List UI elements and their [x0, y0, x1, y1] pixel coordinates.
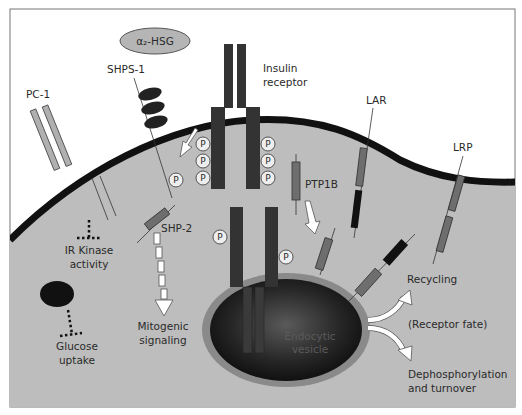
dephosphorylation-label-line1: Dephosphorylation: [408, 368, 508, 380]
ptp1b-label: PTP1B: [305, 178, 338, 190]
phosphate-icon: P: [261, 137, 275, 151]
insulin-receptor-label-line1: Insulin: [263, 62, 297, 74]
ir-kinase-label-line1: IR Kinase: [65, 244, 114, 256]
insulin-receptor-label-line2: receptor: [263, 76, 308, 88]
phosphate-icon: P: [279, 250, 293, 264]
pc1-label: PC-1: [26, 88, 50, 100]
dephosphorylation-label-line2: and turnover: [408, 382, 477, 394]
svg-text:P: P: [283, 252, 289, 262]
phosphate-icon: P: [196, 171, 210, 185]
recycling-label: Recycling: [407, 273, 457, 285]
svg-text:P: P: [173, 175, 179, 185]
mitogenic-label-line2: signaling: [139, 334, 186, 346]
lar-label: LAR: [366, 94, 387, 106]
shp2-label: SHP-2: [161, 222, 192, 234]
svg-text:P: P: [217, 232, 223, 242]
glucose-label-line1: Glucose: [56, 340, 98, 352]
phosphate-icon: P: [196, 137, 210, 151]
vesicle-label-line1: Endocytic: [284, 330, 335, 342]
glucose-label-line2: uptake: [59, 354, 95, 366]
vesicle-label-line2: vesicle: [292, 343, 328, 355]
a2hsg-label: α₂-HSG: [136, 35, 174, 47]
lrp-label: LRP: [453, 141, 472, 153]
svg-text:P: P: [200, 173, 206, 183]
phosphate-icon: P: [213, 230, 227, 244]
receptor-fate-label: (Receptor fate): [408, 318, 487, 330]
phosphate-icon: P: [261, 154, 275, 168]
svg-text:P: P: [265, 139, 271, 149]
svg-text:P: P: [200, 156, 206, 166]
phosphate-icon: P: [169, 173, 183, 187]
ir-kinase-label-line2: activity: [70, 258, 109, 270]
svg-text:P: P: [265, 173, 271, 183]
shps1-label: SHPS-1: [107, 63, 145, 75]
mitogenic-label-line1: Mitogenic: [138, 320, 189, 332]
svg-text:P: P: [265, 156, 271, 166]
phosphate-icon: P: [196, 154, 210, 168]
svg-text:P: P: [200, 139, 206, 149]
phosphate-icon: P: [261, 171, 275, 185]
a2hsg-ligand: α₂-HSG: [120, 28, 190, 54]
insulin-receptor-diagram: α₂-HSG SHPS-1 PC-1 IR Kinase activity Gl…: [0, 0, 522, 415]
